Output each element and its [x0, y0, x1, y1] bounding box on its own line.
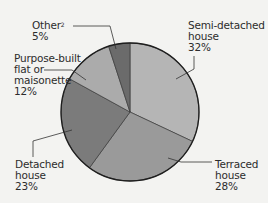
- label-semi-pct: 32%: [188, 41, 211, 53]
- label-detached: Detached house 23%: [15, 159, 64, 192]
- label-semi-detached: Semi-detached house 32%: [188, 20, 265, 53]
- label-pb-pct: 12%: [14, 85, 37, 97]
- label-terraced: Terraced house 28%: [215, 159, 258, 192]
- footnote-marker: 2: [61, 21, 65, 28]
- label-det-pct: 23%: [15, 180, 38, 192]
- label-other-pct: 5%: [32, 30, 48, 42]
- pie-slices: [61, 43, 199, 181]
- label-terr-pct: 28%: [215, 180, 238, 192]
- label-purpose-built: Purpose-built flat or maisonette 12%: [14, 53, 81, 97]
- label-other: Other2 5%: [32, 20, 64, 42]
